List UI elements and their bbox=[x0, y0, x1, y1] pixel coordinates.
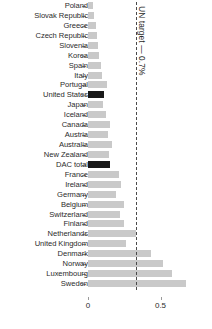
bar-denmark bbox=[88, 250, 151, 257]
bar-row: Slovak Republic bbox=[0, 12, 212, 21]
bar-dac-total bbox=[88, 161, 110, 168]
category-label: Spain bbox=[69, 61, 88, 70]
bar-row: Japan bbox=[0, 101, 212, 110]
bar-row: Denmark bbox=[0, 250, 212, 259]
category-label: Japan bbox=[68, 100, 88, 109]
bar-netherlands bbox=[88, 230, 136, 237]
x-tick bbox=[88, 297, 89, 300]
category-label: New Zealand bbox=[44, 150, 88, 159]
category-label: Canada bbox=[62, 120, 88, 129]
category-label: Netherlands bbox=[48, 229, 88, 238]
bar-italy bbox=[88, 72, 102, 79]
bar-iceland bbox=[88, 111, 106, 118]
bar-belgium bbox=[88, 201, 124, 208]
bar-row: Greece bbox=[0, 22, 212, 31]
bar-canada bbox=[88, 121, 110, 128]
bar-australia bbox=[88, 141, 112, 148]
bar-row: United Kingdom bbox=[0, 240, 212, 249]
bar-row: Luxembourg bbox=[0, 270, 212, 279]
oda-bar-chart: PolandSlovak RepublicGreeceCzech Republi… bbox=[0, 0, 212, 329]
category-label: Slovenia bbox=[59, 41, 88, 50]
category-label: Ireland bbox=[65, 180, 88, 189]
bar-row: DAC total bbox=[0, 161, 212, 170]
category-label: Portugal bbox=[60, 80, 88, 89]
category-label: Australia bbox=[59, 140, 88, 149]
category-label: Korea bbox=[68, 51, 88, 60]
bar-switzerland bbox=[88, 211, 120, 218]
bar-row: Iceland bbox=[0, 111, 212, 120]
bar-spain bbox=[88, 62, 101, 69]
category-label: DAC total bbox=[56, 160, 88, 169]
category-label: Denmark bbox=[58, 249, 88, 258]
bar-row: Finland bbox=[0, 220, 212, 229]
bar-finland bbox=[88, 220, 124, 227]
bar-row: Spain bbox=[0, 62, 212, 71]
bar-row: Netherlands bbox=[0, 230, 212, 239]
bar-row: Portugal bbox=[0, 81, 212, 90]
bar-germany bbox=[88, 191, 116, 198]
bar-slovenia bbox=[88, 42, 98, 49]
bar-row: Korea bbox=[0, 52, 212, 61]
bar-greece bbox=[88, 22, 96, 29]
category-label: Sweden bbox=[61, 279, 88, 288]
category-label: Austria bbox=[65, 130, 88, 139]
category-label: Slovak Republic bbox=[34, 11, 88, 20]
category-label: Switzerland bbox=[49, 210, 88, 219]
category-label: Czech Republic bbox=[36, 31, 88, 40]
bar-row: Australia bbox=[0, 141, 212, 150]
category-label: Iceland bbox=[64, 110, 88, 119]
bar-ireland bbox=[88, 181, 121, 188]
bar-row: Slovenia bbox=[0, 42, 212, 51]
bar-slovak-republic bbox=[88, 12, 94, 19]
category-label: United States bbox=[43, 90, 88, 99]
bar-row: Belgium bbox=[0, 201, 212, 210]
x-tick bbox=[161, 297, 162, 300]
bar-japan bbox=[88, 101, 103, 108]
bar-new-zealand bbox=[88, 151, 109, 158]
bar-korea bbox=[88, 52, 99, 59]
x-axis-line bbox=[88, 296, 198, 297]
category-label: United Kingdom bbox=[35, 239, 88, 248]
category-label: Italy bbox=[74, 71, 88, 80]
category-label: Norway bbox=[63, 259, 88, 268]
bar-row: Austria bbox=[0, 131, 212, 140]
bar-france bbox=[88, 171, 119, 178]
bar-sweden bbox=[88, 280, 186, 287]
bar-row: Canada bbox=[0, 121, 212, 130]
bar-row: Switzerland bbox=[0, 211, 212, 220]
bar-united-kingdom bbox=[88, 240, 126, 247]
bar-austria bbox=[88, 131, 108, 138]
bar-row: Czech Republic bbox=[0, 32, 212, 41]
category-label: Poland bbox=[65, 1, 88, 10]
category-label: Luxembourg bbox=[46, 269, 88, 278]
bar-row: France bbox=[0, 171, 212, 180]
bar-row: United States bbox=[0, 91, 212, 100]
plot-area: PolandSlovak RepublicGreeceCzech Republi… bbox=[0, 0, 212, 329]
bar-row: New Zealand bbox=[0, 151, 212, 160]
bar-row: Poland bbox=[0, 2, 212, 11]
bar-row: Germany bbox=[0, 191, 212, 200]
bar-row: Sweden bbox=[0, 280, 212, 289]
category-label: Greece bbox=[63, 21, 88, 30]
bar-portugal bbox=[88, 81, 107, 88]
category-label: France bbox=[65, 170, 88, 179]
category-label: Germany bbox=[57, 190, 88, 199]
x-tick-label: 0 bbox=[86, 301, 90, 310]
bar-row: Norway bbox=[0, 260, 212, 269]
bar-united-states bbox=[88, 91, 104, 98]
bar-norway bbox=[88, 260, 163, 267]
bar-row: Italy bbox=[0, 72, 212, 81]
category-label: Finland bbox=[63, 219, 88, 228]
x-tick-label: 0.5 bbox=[155, 301, 166, 310]
bar-czech-republic bbox=[88, 32, 97, 39]
bar-poland bbox=[88, 2, 93, 9]
bar-luxembourg bbox=[88, 270, 172, 277]
category-label: Belgium bbox=[61, 200, 88, 209]
bar-row: Ireland bbox=[0, 181, 212, 190]
un-target-label: UN target — 0.7% bbox=[137, 6, 147, 76]
